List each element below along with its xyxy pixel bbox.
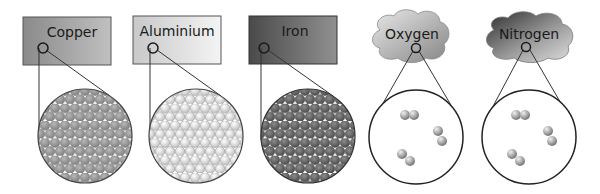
- oxygen-panel: Oxygen: [369, 10, 463, 184]
- nitrogen-label: Nitrogen: [499, 26, 559, 42]
- copper-panel: Copper: [23, 17, 135, 186]
- iron-label: Iron: [281, 23, 308, 39]
- nitrogen-magnified-view: [482, 90, 576, 184]
- iron-atom-lattice: [258, 86, 358, 186]
- copper-atom-lattice: [35, 86, 135, 186]
- copper-label: Copper: [47, 24, 98, 40]
- aluminium-atom-lattice: [146, 86, 246, 186]
- nitrogen-panel: Nitrogen: [482, 12, 576, 184]
- aluminium-label: Aluminium: [139, 23, 214, 39]
- aluminium-panel: Aluminium: [133, 16, 246, 186]
- oxygen-magnified-view: [369, 90, 463, 184]
- iron-panel: Iron: [249, 16, 358, 186]
- materials-diagram: Copper Aluminium Iron Oxygen: [0, 0, 600, 194]
- oxygen-label: Oxygen: [385, 26, 439, 42]
